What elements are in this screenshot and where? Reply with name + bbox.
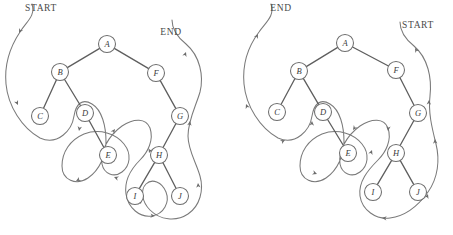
tree-node-e[interactable]: E: [100, 147, 117, 164]
tree-node-c[interactable]: C: [269, 104, 286, 121]
tree-edge-g-h: [163, 123, 176, 147]
tree-edge-g-h: [400, 120, 414, 145]
tree-edge-a-b: [67, 48, 99, 67]
tree-node-j[interactable]: J: [410, 184, 427, 201]
node-circle-c: [269, 104, 286, 121]
tree-node-g[interactable]: G: [410, 105, 427, 122]
node-circle-g: [410, 105, 427, 122]
tour-arrowhead: [113, 175, 119, 181]
node-circle-i: [365, 184, 382, 201]
tour-arrowhead: [182, 51, 188, 57]
tree-node-b[interactable]: B: [291, 63, 308, 80]
node-circle-j: [172, 188, 189, 205]
tree-node-e[interactable]: E: [340, 145, 357, 162]
preorder-traversal-diagram: ABCDEFGHIJSTARTEND: [6, 3, 202, 219]
node-circle-d: [315, 104, 332, 121]
tree-edge-b-c: [44, 80, 57, 109]
tour-arrowhead: [77, 126, 82, 131]
tree-node-g[interactable]: G: [172, 108, 189, 125]
tree-node-f[interactable]: F: [148, 65, 165, 82]
tree-edge-a-b: [306, 47, 337, 66]
start-label: START: [402, 20, 434, 30]
tree-node-a[interactable]: A: [337, 35, 354, 52]
node-circle-c: [32, 108, 49, 125]
tree-node-i[interactable]: I: [127, 188, 144, 205]
node-circle-f: [148, 65, 165, 82]
tree-edge-b-d: [64, 79, 80, 105]
tree-node-i[interactable]: I: [365, 184, 382, 201]
node-circle-h: [388, 145, 405, 162]
node-circle-j: [410, 184, 427, 201]
tree-edge-a-f: [114, 48, 148, 68]
node-circle-b: [291, 63, 308, 80]
tree-node-c[interactable]: C: [32, 108, 49, 125]
tree-edge-h-i: [377, 160, 391, 184]
tour-arrowhead: [312, 170, 318, 176]
tour-arrowhead: [386, 126, 391, 131]
traversal-figure: ABCDEFGHIJSTARTENDABCDEFGHIJSTARTEND: [0, 0, 453, 235]
tree-node-h[interactable]: H: [388, 145, 405, 162]
tree-edge-h-j: [163, 163, 176, 189]
tree-edge-f-g: [400, 78, 414, 106]
node-circle-a: [337, 35, 354, 52]
tree-node-b[interactable]: B: [52, 64, 69, 81]
figure-canvas: ABCDEFGHIJSTARTENDABCDEFGHIJSTARTEND: [0, 0, 453, 235]
tour-arrowhead: [196, 183, 201, 188]
node-circle-g: [172, 108, 189, 125]
node-circle-i: [127, 188, 144, 205]
tour-arrowhead: [14, 100, 20, 106]
end-label: END: [270, 3, 291, 13]
node-circle-b: [52, 64, 69, 81]
tree-node-a[interactable]: A: [99, 36, 116, 53]
node-circle-e: [340, 145, 357, 162]
tree-node-d[interactable]: D: [77, 105, 94, 122]
postorder-traversal-diagram: ABCDEFGHIJSTARTEND: [244, 3, 438, 221]
end-label: END: [160, 27, 181, 37]
tree-edge-h-j: [400, 160, 414, 184]
tree-node-f[interactable]: F: [388, 62, 405, 79]
node-circle-d: [77, 105, 94, 122]
tour-arrowhead: [368, 149, 374, 155]
tree-node-d[interactable]: D: [315, 104, 332, 121]
tree-edge-a-f: [353, 47, 389, 66]
start-label: START: [25, 3, 57, 13]
tree-edge-h-i: [139, 162, 154, 188]
tree-edge-b-d: [303, 78, 318, 104]
tree-edge-b-c: [281, 78, 295, 104]
tour-arrowhead: [433, 139, 438, 144]
tree-node-j[interactable]: J: [172, 188, 189, 205]
node-circle-e: [100, 147, 117, 164]
node-circle-f: [388, 62, 405, 79]
tour-arrowhead: [427, 100, 432, 105]
node-circle-a: [99, 36, 116, 53]
tree-edge-d-e: [89, 120, 104, 147]
tree-node-h[interactable]: H: [151, 147, 168, 164]
tree-edge-f-g: [160, 80, 176, 108]
node-circle-h: [151, 147, 168, 164]
